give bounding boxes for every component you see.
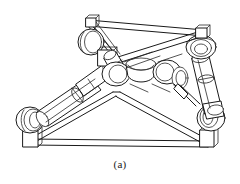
figure-container: (a) [0, 0, 240, 184]
figure-caption: (a) [0, 158, 240, 170]
leg-right [191, 52, 224, 119]
mechanism-drawing [0, 0, 240, 184]
joint-top-right [186, 35, 216, 59]
joint-center [102, 58, 188, 89]
link-right-mid [174, 84, 200, 106]
